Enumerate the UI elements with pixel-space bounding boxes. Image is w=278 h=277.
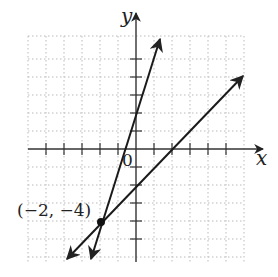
y-axis-label: y [121,6,132,26]
origin-label: 0 [122,152,133,169]
intersection-label: (−2, −4) [17,202,91,219]
coordinate-graph [0,0,278,277]
x-axis-label: x [256,148,267,168]
intersection-point [97,218,105,226]
